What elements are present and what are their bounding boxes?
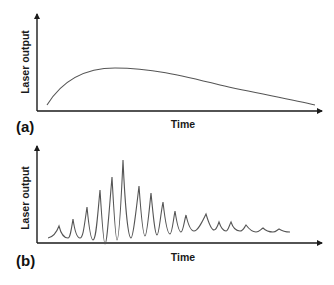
xlabel-b: Time — [171, 251, 195, 263]
panel-label-a: (a) — [16, 118, 34, 135]
ylabel-a: Laser output — [19, 30, 31, 94]
figure: Laser output Time (a) Laser output Time … — [0, 0, 334, 285]
output-curve-b — [48, 160, 290, 244]
panel-b: Laser output Time (b) — [16, 146, 322, 269]
xlabel-a: Time — [171, 118, 195, 130]
ylabel-b: Laser output — [19, 166, 31, 230]
panel-label-b: (b) — [16, 252, 35, 269]
output-curve-a — [47, 68, 315, 105]
panel-a: Laser output Time (a) — [16, 14, 322, 135]
